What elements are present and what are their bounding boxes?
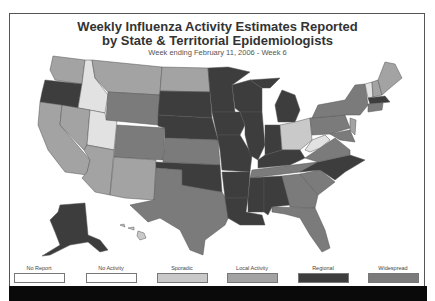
state-arkansas bbox=[222, 172, 250, 198]
legend-label: Local Activity bbox=[226, 264, 278, 272]
legend-swatch-no-activity bbox=[86, 273, 137, 283]
state-new-york bbox=[312, 84, 368, 118]
state-connecticut bbox=[368, 103, 383, 112]
state-wyoming bbox=[106, 92, 160, 125]
legend-label: Sporadic bbox=[156, 264, 208, 272]
state-florida bbox=[272, 207, 330, 252]
legend-swatch-widespread bbox=[368, 273, 419, 283]
state-mississippi bbox=[248, 177, 264, 212]
legend-swatch-no-report bbox=[14, 273, 65, 283]
us-activity-map bbox=[0, 0, 435, 301]
legend-label: Regional bbox=[297, 264, 349, 272]
legend-sporadic: Sporadic bbox=[156, 264, 208, 283]
state-kansas bbox=[163, 138, 220, 165]
state-ohio bbox=[280, 118, 312, 150]
legend-local-activity: Local Activity bbox=[226, 264, 278, 283]
legend-label: No Activity bbox=[85, 264, 137, 272]
legend-widespread: Widespread bbox=[367, 264, 419, 283]
legend-swatch-regional bbox=[298, 273, 349, 283]
legend-no-report: No Report bbox=[13, 264, 65, 283]
legend-label: No Report bbox=[13, 264, 65, 272]
state-new-mexico bbox=[110, 157, 156, 200]
legend-regional: Regional bbox=[297, 264, 349, 283]
legend-no-activity: No Activity bbox=[85, 264, 137, 283]
legend-swatch-sporadic bbox=[157, 273, 208, 283]
bottom-band bbox=[9, 286, 427, 301]
state-north-dakota bbox=[160, 67, 210, 92]
state-iowa bbox=[212, 112, 245, 135]
state-hawaii bbox=[120, 224, 146, 240]
state-south-dakota bbox=[158, 91, 212, 118]
state-nebraska bbox=[158, 115, 218, 140]
state-maine bbox=[378, 62, 402, 95]
state-washington bbox=[50, 56, 85, 84]
state-alaska bbox=[42, 203, 108, 256]
legend-label: Widespread bbox=[367, 264, 419, 272]
state-colorado bbox=[114, 125, 165, 160]
legend-swatch-local-activity bbox=[227, 273, 278, 283]
